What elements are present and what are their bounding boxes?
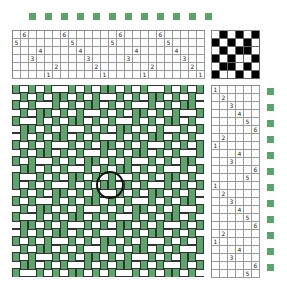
threading-cell: [61, 55, 69, 63]
drawdown-cell: [60, 269, 68, 277]
drawdown-cell: [12, 133, 20, 141]
threading-cell: [165, 55, 173, 63]
drawdown-cell: [116, 133, 124, 141]
drawdown-cell: [164, 165, 172, 173]
threading-cell: [21, 39, 29, 47]
drawdown-cell: [28, 141, 36, 149]
treadling-cell: [244, 126, 252, 134]
treadling-cell: [220, 206, 228, 214]
treadling-cell: [228, 134, 236, 142]
drawdown-cell: [140, 125, 148, 133]
drawdown-cell: [132, 205, 140, 213]
drawdown-cell: [36, 133, 44, 141]
drawdown-cell: [172, 229, 180, 237]
warp-marker: [141, 13, 148, 20]
drawdown-cell: [164, 269, 172, 277]
threading-cell: [125, 31, 133, 39]
treadling-cell: [212, 110, 220, 118]
threading-cell: [37, 71, 45, 79]
drawdown-cell: [12, 245, 20, 253]
treadling-cell: 5: [244, 118, 252, 126]
drawdown-cell: [60, 253, 68, 261]
threading-cell: [189, 39, 197, 47]
drawdown-cell: [188, 157, 196, 165]
drawdown-cell: [84, 245, 92, 253]
threading-cell: [29, 39, 37, 47]
drawdown-cell: [100, 229, 108, 237]
treadling-cell: [220, 142, 228, 150]
drawdown-cell: [84, 109, 92, 117]
drawdown-cell: [44, 149, 52, 157]
treadling-cell: 2: [220, 134, 228, 142]
drawdown-cell: [60, 181, 68, 189]
drawdown-cell: [92, 197, 100, 205]
drawdown-cell: [124, 125, 132, 133]
drawdown-cell: [188, 93, 196, 101]
drawdown-cell: [180, 237, 188, 245]
drawdown-cell: [172, 141, 180, 149]
threading-cell: [93, 71, 101, 79]
weft-marker: [267, 248, 274, 255]
drawdown-cell: [164, 133, 172, 141]
drawdown-cell: [164, 117, 172, 125]
threading-cell: [149, 71, 157, 79]
drawdown-cell: [148, 93, 156, 101]
treadling-cell: [220, 254, 228, 262]
drawdown-cell: [12, 213, 20, 221]
drawdown-cell: [28, 165, 36, 173]
treadling-cell: [212, 102, 220, 110]
drawdown-cell: [12, 125, 20, 133]
drawdown-cell: [68, 157, 76, 165]
drawdown-cell: [124, 173, 132, 181]
drawdown-cell: [12, 189, 20, 197]
drawdown-cell: [116, 85, 124, 93]
drawdown-cell: [156, 261, 164, 269]
threading-cell: [101, 47, 109, 55]
threading-cell: [21, 71, 29, 79]
threading-cell: [69, 63, 77, 71]
treadling-cell: 4: [236, 110, 244, 118]
treadling-cell: [220, 86, 228, 94]
treadling-cell: [244, 254, 252, 262]
drawdown-cell: [196, 253, 204, 261]
drawdown-cell: [52, 85, 60, 93]
threading-cell: [101, 63, 109, 71]
drawdown-cell: [108, 109, 116, 117]
tieup-cell: [236, 55, 244, 63]
treadling-cell: [228, 214, 236, 222]
threading-cell: 5: [165, 39, 173, 47]
drawdown-cell: [44, 213, 52, 221]
drawdown-cell: [76, 229, 84, 237]
drawdown-cell: [108, 261, 116, 269]
drawdown-cell: [172, 173, 180, 181]
drawdown-cell: [148, 269, 156, 277]
drawdown-cell: [148, 157, 156, 165]
drawdown-cell: [108, 213, 116, 221]
drawdown-cell: [140, 205, 148, 213]
drawdown-cell: [20, 269, 28, 277]
drawdown-cell: [124, 133, 132, 141]
drawdown-cell: [172, 149, 180, 157]
drawdown-cell: [156, 189, 164, 197]
drawdown-cell: [68, 141, 76, 149]
treadling-cell: [212, 166, 220, 174]
drawdown-cell: [172, 261, 180, 269]
highlight-circle: [96, 171, 124, 199]
tieup-cell: [252, 47, 260, 55]
tieup-cell: [244, 55, 252, 63]
drawdown-cell: [36, 197, 44, 205]
drawdown-cell: [28, 253, 36, 261]
drawdown-cell: [124, 261, 132, 269]
drawdown-cell: [12, 253, 20, 261]
drawdown-cell: [124, 165, 132, 173]
treadling-cell: [252, 174, 260, 182]
treadling-cell: [236, 118, 244, 126]
drawdown-cell: [164, 157, 172, 165]
drawdown-cell: [116, 229, 124, 237]
drawdown-cell: [196, 157, 204, 165]
drawdown-cell: [92, 261, 100, 269]
drawdown-cell: [100, 117, 108, 125]
treadling-cell: [244, 142, 252, 150]
drawdown-cell: [140, 237, 148, 245]
drawdown-cell: [92, 117, 100, 125]
